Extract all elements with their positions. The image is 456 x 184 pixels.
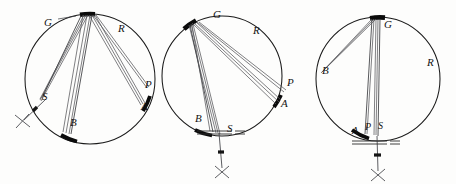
label-G: G [213,8,221,20]
thick-arc-B [61,135,77,142]
chord-G-S-main [378,19,380,136]
label-S: S [42,90,48,102]
label-A: A [280,97,288,109]
label-R: R [426,56,434,68]
figure-canvas: G R P A S B [0,0,456,184]
label-B: B [195,112,202,124]
label-P: P [364,121,371,132]
chord-G-P-2 [374,19,376,135]
diagram-svg: G R P A S B [0,0,456,184]
label-G: G [44,16,52,28]
chord-G-P-1 [197,22,284,92]
panel-left: G R P A S B [15,14,155,144]
panel-right: G R B A P S [316,17,440,181]
label-S: S [227,122,233,134]
chord-G-A-1 [89,15,141,105]
chord-G-A-main [365,19,372,134]
panel-middle: G R P A B S [162,8,294,178]
chord-G-P-1 [367,19,374,134]
circle-outline [25,14,155,144]
label-A: A [351,125,359,136]
label-A: A [140,100,148,112]
chord-G-S-1 [376,19,378,135]
hatch-marks [352,141,400,144]
chord-G-B-3 [323,19,376,71]
label-S: S [378,120,383,131]
label-P: P [286,76,294,88]
thick-arc-G [80,14,95,15]
pointer-tick [33,107,37,111]
label-B: B [70,116,77,128]
thick-arc-G [370,17,385,18]
label-B: B [322,64,329,76]
label-R: R [117,22,125,34]
label-P: P [144,78,152,90]
chord-G-S-main [42,16,81,98]
label-G: G [384,18,392,30]
chord-G-P-2 [199,22,286,90]
label-R: R [252,24,260,36]
